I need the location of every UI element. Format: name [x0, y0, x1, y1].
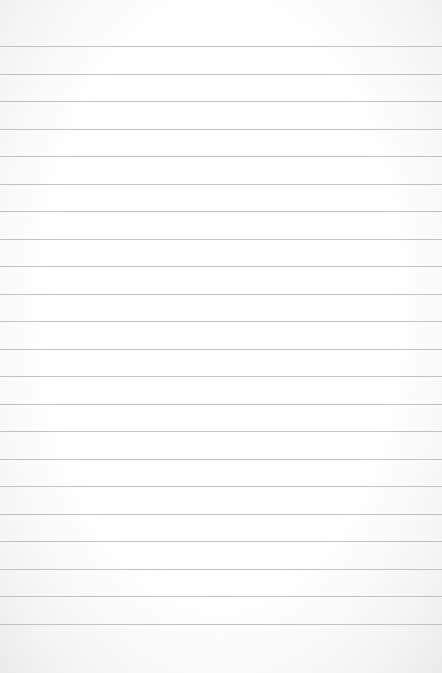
lined-paper: [0, 0, 442, 673]
ruled-line: [0, 156, 442, 157]
ruled-line: [0, 129, 442, 130]
ruled-line: [0, 101, 442, 102]
ruled-line: [0, 486, 442, 487]
ruled-line: [0, 349, 442, 350]
ruled-line: [0, 239, 442, 240]
ruled-line: [0, 184, 442, 185]
ruled-line: [0, 541, 442, 542]
ruled-line: [0, 321, 442, 322]
ruled-line: [0, 46, 442, 47]
ruled-line: [0, 459, 442, 460]
ruled-line: [0, 596, 442, 597]
ruled-line: [0, 294, 442, 295]
ruled-line: [0, 514, 442, 515]
ruled-line: [0, 211, 442, 212]
ruled-line: [0, 404, 442, 405]
ruled-line: [0, 74, 442, 75]
ruled-line: [0, 376, 442, 377]
ruled-line: [0, 624, 442, 625]
ruled-line: [0, 266, 442, 267]
ruled-line: [0, 431, 442, 432]
ruled-line: [0, 569, 442, 570]
